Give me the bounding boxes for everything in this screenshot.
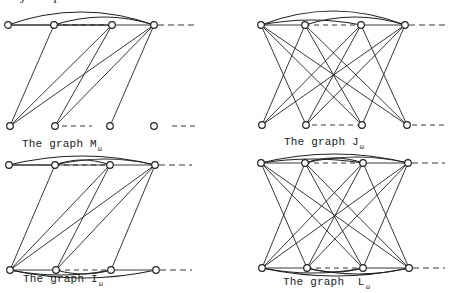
vertex: [107, 162, 114, 169]
caption-letter: M: [90, 138, 97, 150]
caption-graph-m: The graph Mω: [22, 138, 102, 150]
graph-j: [258, 11, 447, 128]
cross-edge: [262, 25, 361, 125]
vertex: [109, 22, 116, 29]
vertex: [258, 22, 265, 29]
vertex: [303, 122, 310, 129]
caption-subscript: ω: [99, 280, 103, 288]
vertex: [404, 122, 411, 129]
vertex: [360, 160, 367, 167]
caption-subscript: ω: [366, 283, 370, 291]
vertex: [5, 22, 12, 29]
vertex: [52, 123, 59, 130]
top-arc: [55, 159, 155, 165]
graph-m: [5, 12, 195, 129]
cross-edge: [55, 25, 112, 126]
vertex: [360, 265, 367, 272]
caption-text: The graph: [284, 136, 352, 148]
top-arc: [54, 17, 154, 25]
vertex: [259, 265, 266, 272]
caption-graph-l: The graph Lω: [283, 276, 370, 288]
caption-graph-j: The graph Jω: [284, 136, 364, 148]
vertex: [259, 122, 266, 129]
vertex: [7, 123, 14, 130]
caption-letter: I: [91, 273, 98, 285]
vertex: [107, 123, 114, 130]
vertex: [302, 160, 309, 167]
vertex: [51, 22, 58, 29]
caption-graph-i: The graph Iω: [23, 273, 103, 285]
vertex: [405, 160, 412, 167]
vertex: [358, 22, 365, 29]
vertex: [7, 267, 14, 274]
cropped-label: J: [20, 0, 25, 7]
caption-text: The graph: [283, 276, 358, 288]
graph-l: [258, 154, 445, 276]
cross-edge: [55, 25, 154, 126]
vertex: [152, 162, 159, 169]
vertex: [6, 162, 13, 169]
top-arc: [261, 20, 361, 25]
caption-text: The graph: [23, 273, 91, 285]
cropped-label: I: [53, 0, 57, 7]
vertex: [302, 22, 309, 29]
caption-letter: J: [352, 136, 359, 148]
cross-edge: [10, 165, 110, 270]
caption-letter: L: [358, 276, 365, 288]
caption-subscript: ω: [98, 145, 102, 153]
vertex: [304, 265, 311, 272]
vertex: [402, 22, 409, 29]
vertex: [151, 123, 158, 130]
cross-edge: [10, 25, 112, 126]
vertex: [52, 162, 59, 169]
graph-i: [6, 156, 192, 278]
vertex: [359, 122, 366, 129]
vertex: [151, 22, 158, 29]
vertex: [258, 160, 265, 167]
cross-edge: [56, 165, 155, 270]
vertex: [406, 265, 413, 272]
caption-subscript: ω: [360, 143, 364, 151]
vertex: [153, 267, 160, 274]
vertex: [108, 267, 115, 274]
caption-text: The graph: [22, 138, 90, 150]
